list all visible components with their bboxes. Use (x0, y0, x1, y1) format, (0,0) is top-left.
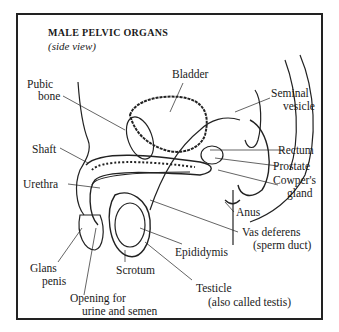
label-glans-penis-1: Glans (30, 262, 57, 274)
label-testicle-1: Testicle (196, 282, 232, 294)
label-seminal-vesicle-2: vesicle (283, 100, 315, 112)
label-rectum: Rectum (278, 144, 314, 156)
label-opening-2: urine and semen (82, 305, 157, 317)
label-opening-1: Opening for (70, 292, 126, 304)
label-bladder: Bladder (172, 68, 208, 80)
label-pubic-bone-1: Pubic (27, 78, 53, 90)
label-vas-deferens-2: (sperm duct) (253, 239, 311, 251)
label-testicle-2: (also called testis) (208, 296, 291, 308)
label-scrotum: Scrotum (116, 264, 155, 276)
label-pubic-bone-2: bone (38, 90, 60, 102)
label-cowpers-gland-2: gland (287, 187, 313, 199)
label-anus: Anus (236, 206, 260, 218)
label-urethra: Urethra (23, 178, 58, 190)
label-seminal-vesicle-1: Seminal (271, 87, 309, 99)
label-cowpers-gland-1: Cowper's (273, 174, 316, 186)
label-prostate: Prostate (273, 160, 310, 172)
label-glans-penis-2: penis (42, 275, 66, 287)
label-vas-deferens-1: Vas deferens (242, 226, 300, 238)
label-epididymis: Epididymis (175, 246, 228, 258)
label-shaft: Shaft (32, 143, 56, 155)
